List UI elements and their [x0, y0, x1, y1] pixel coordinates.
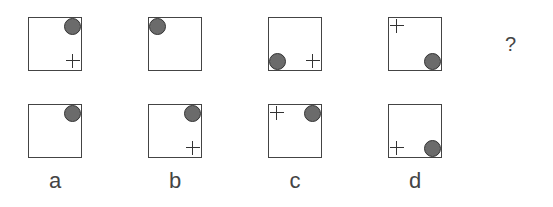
cross-icon: [66, 54, 80, 68]
circle-icon: [149, 18, 166, 35]
cross-icon: [390, 141, 404, 155]
circle-icon: [184, 105, 201, 122]
sequence-panel-4: [388, 17, 442, 71]
circle-icon: [424, 53, 441, 70]
option-panel-b[interactable]: [148, 104, 202, 158]
circle-icon: [304, 105, 321, 122]
cross-icon: [306, 54, 320, 68]
option-panel-d[interactable]: [388, 104, 442, 158]
question-mark: ?: [505, 33, 516, 56]
circle-icon: [64, 105, 81, 122]
circle-icon: [424, 140, 441, 157]
option-label-a: a: [28, 168, 82, 194]
option-panel-a[interactable]: [28, 104, 82, 158]
option-label-b: b: [148, 168, 202, 194]
sequence-panel-1: [28, 17, 82, 71]
option-label-d: d: [388, 168, 442, 194]
option-label-c: c: [268, 168, 322, 194]
sequence-panel-2: [148, 17, 202, 71]
option-panel-c[interactable]: [268, 104, 322, 158]
cross-icon: [390, 19, 404, 33]
sequence-panel-3: [268, 17, 322, 71]
circle-icon: [64, 18, 81, 35]
circle-icon: [269, 53, 286, 70]
cross-icon: [186, 141, 200, 155]
cross-icon: [270, 106, 284, 120]
